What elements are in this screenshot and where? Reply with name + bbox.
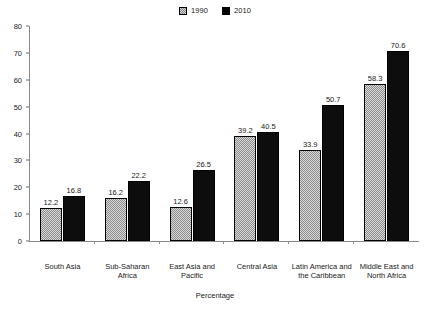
- bar-value-label: 33.9: [303, 140, 318, 149]
- y-tick-70: 70: [14, 48, 22, 57]
- x-tick-mark: [223, 241, 224, 244]
- bar-1990[interactable]: 33.9: [299, 150, 321, 241]
- legend-label-2010: 2010: [234, 6, 251, 15]
- bar-group-sub-saharan-africa: 16.2 22.2: [95, 26, 160, 241]
- bar-value-label: 26.5: [196, 160, 211, 169]
- bar-2010[interactable]: 70.6: [387, 51, 409, 241]
- category-label-latin-america-and-the-caribbean: Latin America and the Caribbean: [289, 262, 354, 280]
- bar-1990[interactable]: 39.2: [234, 136, 256, 241]
- bar-value-label: 16.2: [108, 188, 123, 197]
- category-label-line1: South Asia: [31, 262, 94, 271]
- legend-item-2010: 2010: [222, 6, 251, 15]
- bar-chart: 1990 2010 0 10 20 30 40 50 60 70 80: [0, 0, 430, 314]
- y-tick-20: 20: [14, 183, 22, 192]
- bar-group-east-asia-and-pacific: 12.6 26.5: [160, 26, 225, 241]
- bar-2010[interactable]: 22.2: [128, 181, 150, 241]
- bar-value-label: 40.5: [261, 122, 276, 131]
- category-label-middle-east-and-north-africa: Middle East and North Africa: [354, 262, 419, 280]
- category-label-line1: Middle East and: [355, 262, 418, 271]
- bar-1990[interactable]: 58.3: [364, 84, 386, 241]
- category-label-south-asia: South Asia: [30, 262, 95, 280]
- bar-group-latin-america-and-the-caribbean: 33.9 50.7: [289, 26, 354, 241]
- plot-wrapper: 0 10 20 30 40 50 60 70 80 12.2: [0, 26, 430, 258]
- category-label-line1: Sub-Saharan Africa: [96, 262, 159, 280]
- x-axis-title: Percentage: [0, 291, 430, 300]
- hatched-square-icon: [179, 7, 187, 15]
- y-tick-80: 80: [14, 22, 22, 31]
- bar-value-label: 22.2: [131, 171, 146, 180]
- bar-group-central-asia: 39.2 40.5: [224, 26, 289, 241]
- x-tick-mark: [353, 241, 354, 244]
- category-label-line1: East Asia and Pacific: [161, 262, 224, 280]
- y-tick-30: 30: [14, 156, 22, 165]
- bar-1990[interactable]: 16.2: [105, 198, 127, 242]
- x-tick-mark: [159, 241, 160, 244]
- bar-value-label: 12.6: [173, 197, 188, 206]
- bar-value-label: 50.7: [326, 95, 341, 104]
- bar-2010[interactable]: 26.5: [193, 170, 215, 241]
- bar-value-label: 12.2: [44, 198, 59, 207]
- plot-area: 12.2 16.8 16.2 22.2 12.6: [30, 26, 419, 241]
- bar-group-middle-east-and-north-africa: 58.3 70.6: [354, 26, 419, 241]
- category-label-line2: the Caribbean: [290, 271, 353, 280]
- legend-label-1990: 1990: [191, 6, 208, 15]
- bar-2010[interactable]: 40.5: [257, 132, 279, 241]
- bar-group-south-asia: 12.2 16.8: [30, 26, 95, 241]
- x-axis-category-labels: South Asia Sub-Saharan Africa East Asia …: [30, 262, 419, 280]
- category-label-line1: Central Asia: [225, 262, 288, 271]
- y-tick-0: 0: [18, 237, 22, 246]
- y-tick-50: 50: [14, 102, 22, 111]
- solid-square-icon: [222, 7, 230, 15]
- chart-legend: 1990 2010: [0, 6, 430, 15]
- category-label-line2: North Africa: [355, 271, 418, 280]
- y-axis: 0 10 20 30 40 50 60 70 80: [0, 26, 26, 241]
- x-tick-mark: [288, 241, 289, 244]
- y-tick-60: 60: [14, 75, 22, 84]
- x-tick-mark: [94, 241, 95, 244]
- bar-value-label: 70.6: [391, 41, 406, 50]
- bar-value-label: 16.8: [67, 186, 82, 195]
- bar-value-label: 39.2: [238, 126, 253, 135]
- bar-2010[interactable]: 50.7: [322, 105, 344, 241]
- y-tick-10: 10: [14, 210, 22, 219]
- bar-1990[interactable]: 12.2: [40, 208, 62, 241]
- category-label-central-asia: Central Asia: [224, 262, 289, 280]
- bar-1990[interactable]: 12.6: [170, 207, 192, 241]
- category-label-east-asia-and-pacific: East Asia and Pacific: [160, 262, 225, 280]
- category-label-line1: Latin America and: [290, 262, 353, 271]
- bar-value-label: 58.3: [368, 74, 383, 83]
- category-label-sub-saharan-africa: Sub-Saharan Africa: [95, 262, 160, 280]
- legend-item-1990: 1990: [179, 6, 208, 15]
- y-tick-40: 40: [14, 129, 22, 138]
- bar-2010[interactable]: 16.8: [63, 196, 85, 241]
